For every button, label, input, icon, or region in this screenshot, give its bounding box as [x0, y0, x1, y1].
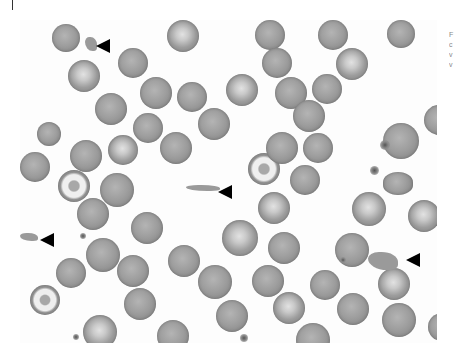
- side-text-line: v: [449, 60, 455, 70]
- red-blood-cell: [336, 48, 368, 80]
- red-blood-cell: [290, 165, 320, 195]
- left-edge-tick: [12, 0, 13, 10]
- red-blood-cell: [312, 74, 342, 104]
- red-blood-cell: [387, 20, 415, 48]
- red-blood-cell: [177, 82, 207, 112]
- red-blood-cell: [83, 315, 117, 343]
- platelet: [340, 257, 346, 263]
- red-blood-cell: [86, 238, 120, 272]
- cell-fragment: [186, 185, 220, 191]
- red-blood-cell: [268, 232, 300, 264]
- platelet: [380, 140, 390, 150]
- red-blood-cell: [273, 292, 305, 324]
- red-blood-cell: [160, 132, 192, 164]
- red-blood-cell: [310, 270, 340, 300]
- red-blood-cell: [133, 113, 163, 143]
- platelet: [370, 166, 379, 175]
- red-blood-cell: [58, 170, 90, 202]
- red-blood-cell: [337, 293, 369, 325]
- side-text-line: v: [449, 50, 455, 60]
- platelet: [240, 334, 248, 342]
- cell-fragment: [20, 233, 38, 241]
- red-blood-cell: [318, 20, 348, 50]
- red-blood-cell: [157, 320, 189, 343]
- arrowhead-icon: [40, 233, 54, 247]
- arrowhead-icon: [218, 185, 232, 199]
- red-blood-cell: [383, 172, 413, 195]
- red-blood-cell: [262, 48, 292, 78]
- red-blood-cell: [68, 60, 100, 92]
- red-blood-cell: [198, 265, 232, 299]
- red-blood-cell: [293, 100, 325, 132]
- red-blood-cell: [424, 105, 437, 135]
- red-blood-cell: [124, 288, 156, 320]
- red-blood-cell: [408, 200, 437, 232]
- cell-fragment: [368, 252, 398, 270]
- red-blood-cell: [140, 77, 172, 109]
- red-blood-cell: [303, 133, 333, 163]
- red-blood-cell: [108, 135, 138, 165]
- red-blood-cell: [167, 20, 199, 52]
- red-blood-cell: [255, 20, 285, 50]
- red-blood-cell: [252, 265, 284, 297]
- red-blood-cell: [30, 285, 60, 315]
- red-blood-cell: [222, 220, 258, 256]
- red-blood-cell: [428, 313, 437, 341]
- side-caption-fragment: Fcvv: [449, 30, 455, 70]
- red-blood-cell: [382, 303, 416, 337]
- red-blood-cell: [198, 108, 230, 140]
- red-blood-cell: [296, 323, 330, 343]
- red-blood-cell: [118, 48, 148, 78]
- red-blood-cell: [117, 255, 149, 287]
- red-blood-cell: [266, 132, 298, 164]
- platelet: [80, 233, 86, 239]
- red-blood-cell: [95, 93, 127, 125]
- red-blood-cell: [70, 140, 102, 172]
- red-blood-cell: [77, 198, 109, 230]
- side-text-line: c: [449, 40, 455, 50]
- platelet: [73, 334, 79, 340]
- red-blood-cell: [20, 152, 50, 182]
- red-blood-cell: [378, 268, 410, 300]
- side-text-line: F: [449, 30, 455, 40]
- red-blood-cell: [37, 122, 61, 146]
- red-blood-cell: [226, 74, 258, 106]
- red-blood-cell: [258, 192, 290, 224]
- arrowhead-icon: [96, 39, 110, 53]
- red-blood-cell: [168, 245, 200, 277]
- micrograph-frame: [20, 20, 437, 343]
- red-blood-cell: [52, 24, 80, 52]
- arrowhead-icon: [406, 253, 420, 267]
- red-blood-cell: [216, 300, 248, 332]
- red-blood-cell: [56, 258, 86, 288]
- red-blood-cell: [352, 192, 386, 226]
- red-blood-cell: [131, 212, 163, 244]
- red-blood-cell: [100, 173, 134, 207]
